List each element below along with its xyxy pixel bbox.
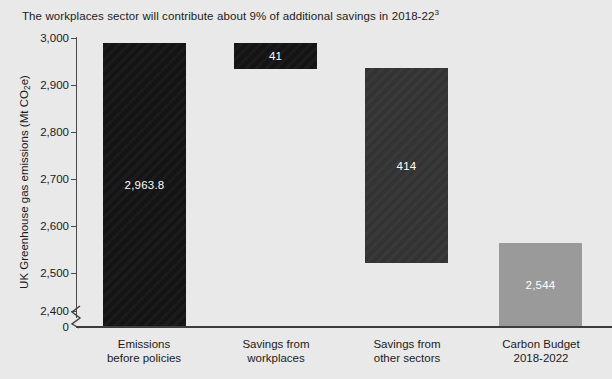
category-label-line1: Emissions — [69, 337, 219, 351]
category-label-line1: Savings from — [332, 337, 482, 351]
category-label-line1: Savings from — [201, 337, 351, 351]
y-axis-tick-labels: 3,000 2,900 2,800 2,700 2,600 2,500 2,40… — [0, 0, 69, 379]
y-tick-label-2500: 2,500 — [3, 268, 69, 279]
category-label-line2: before policies — [69, 351, 219, 365]
y-tick-label-2600: 2,600 — [3, 221, 69, 232]
category-label-savings-from-workplaces: Savings from workplaces — [201, 337, 351, 365]
y-tick-label-2700: 2,700 — [3, 174, 69, 185]
category-label-carbon-budget: Carbon Budget 2018-2022 — [466, 337, 612, 365]
bar-value-savings-from-other-sectors: 414 — [397, 160, 417, 172]
x-axis-line — [76, 326, 612, 328]
bar-savings-from-other-sectors[interactable]: 414 — [365, 68, 448, 263]
category-label-savings-from-other-sectors: Savings from other sectors — [332, 337, 482, 365]
category-label-emissions-before-policies: Emissions before policies — [69, 337, 219, 365]
category-label-line1: Carbon Budget — [466, 337, 612, 351]
y-tick-label-zero: 0 — [3, 322, 69, 333]
category-label-line2: workplaces — [201, 351, 351, 365]
axis-break-icon — [68, 305, 84, 329]
y-tick-label-3000: 3,000 — [3, 33, 69, 44]
y-tick-label-2900: 2,900 — [3, 80, 69, 91]
chart-title: The workplaces sector will contribute ab… — [22, 6, 439, 23]
bar-emissions-before-policies[interactable]: 2,963.8 — [103, 43, 186, 326]
bar-carbon-budget[interactable]: 2,544 — [499, 243, 582, 326]
bar-value-savings-from-workplaces: 41 — [269, 50, 282, 62]
category-label-line2: other sectors — [332, 351, 482, 365]
y-axis-line — [76, 37, 77, 318]
bar-savings-from-workplaces[interactable]: 41 — [234, 43, 317, 69]
chart-title-footnote-marker: 3 — [435, 8, 440, 17]
bar-value-emissions-before-policies: 2,963.8 — [125, 179, 165, 191]
y-tick-label-2800: 2,800 — [3, 127, 69, 138]
bar-value-carbon-budget: 2,544 — [526, 279, 556, 291]
category-label-line2: 2018-2022 — [466, 351, 612, 365]
y-tick-label-2400: 2,400 — [3, 306, 69, 317]
chart-title-text: The workplaces sector will contribute ab… — [22, 10, 435, 22]
